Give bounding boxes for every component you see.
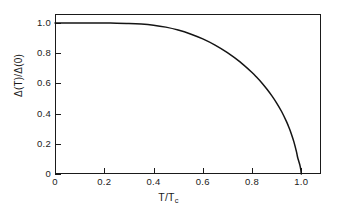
y-axis-title: Δ(T)/Δ(0) — [13, 36, 24, 116]
x-tick-label: 0.4 — [139, 176, 169, 187]
x-tick-label: 1.0 — [286, 176, 316, 187]
figure-container: 1.00.80.60.40.20 00.20.40.60.81.0 Δ(T)/Δ… — [0, 0, 337, 215]
bcs-gap-curve — [55, 23, 301, 174]
plot-area — [55, 14, 321, 174]
y-tick-label-wrap: 0.6 — [0, 77, 51, 89]
y-tick-label: 1.0 — [7, 17, 51, 28]
y-tick-label-wrap: 0.4 — [0, 108, 51, 120]
x-tick-label: 0.2 — [89, 176, 119, 187]
x-axis-title-subscript: c — [175, 196, 179, 205]
x-tick-label: 0.6 — [188, 176, 218, 187]
y-tick-label-wrap: 1.0 — [0, 17, 51, 29]
y-tick-label-wrap: 0.2 — [0, 138, 51, 150]
x-axis-title-base: T/T — [158, 191, 174, 203]
x-axis-title: T/Tc — [0, 191, 337, 205]
x-tick-label: 0 — [40, 176, 70, 187]
y-tick-label: 0.2 — [7, 138, 51, 149]
y-tick-mark — [55, 174, 61, 175]
x-tick-label: 0.8 — [237, 176, 267, 187]
y-tick-label-wrap: 0.8 — [0, 47, 51, 59]
